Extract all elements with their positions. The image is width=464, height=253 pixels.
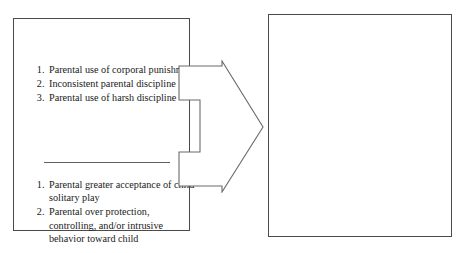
corporal-discipline-group: Parental use of corporal punishment Inco… — [32, 63, 198, 105]
overprotection-list: Parental greater acceptance of child sol… — [32, 178, 198, 246]
antecedents-divider — [44, 162, 170, 163]
list-item: Parental over protection, controlling, a… — [47, 205, 198, 245]
list-item: Inconsistent parental discipline — [47, 77, 198, 90]
outcomes-box: Child: Rule breaking Aggression Inabilit… — [268, 14, 452, 237]
list-item: Parental use of corporal punishment — [47, 63, 198, 76]
right-arrow-icon — [178, 60, 264, 193]
antecedents-box: Parental use of corporal punishment Inco… — [13, 18, 190, 231]
list-item: Parental use of harsh discipline — [47, 91, 198, 104]
list-item: Parental greater acceptance of child sol… — [47, 178, 198, 205]
corporal-discipline-list: Parental use of corporal punishment Inco… — [32, 63, 198, 104]
overprotection-group: Parental greater acceptance of child sol… — [32, 178, 198, 246]
diagram-canvas: Parental use of corporal punishment Inco… — [0, 0, 464, 253]
flow-arrow — [178, 60, 264, 193]
